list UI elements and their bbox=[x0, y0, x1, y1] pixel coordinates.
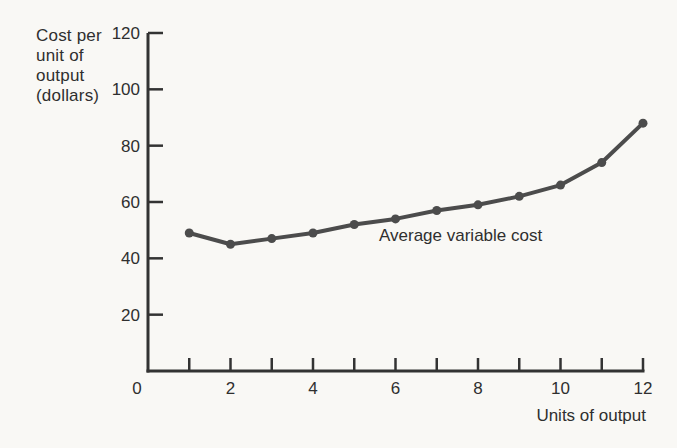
data-point-marker bbox=[267, 234, 276, 243]
data-point-marker bbox=[309, 228, 318, 237]
y-tick-label: 60 bbox=[121, 193, 140, 212]
x-tick-label: 12 bbox=[634, 379, 653, 398]
x-tick-label: 2 bbox=[226, 379, 235, 398]
x-tick-label: 8 bbox=[473, 379, 482, 398]
data-point-marker bbox=[474, 200, 483, 209]
x-tick-label: 10 bbox=[551, 379, 570, 398]
x-tick-label: 0 bbox=[132, 379, 141, 398]
x-tick-label: 6 bbox=[391, 379, 400, 398]
data-point-marker bbox=[515, 192, 524, 201]
x-tick-label: 4 bbox=[308, 379, 317, 398]
data-point-marker bbox=[639, 119, 648, 128]
y-tick-label: 120 bbox=[112, 24, 140, 43]
y-tick-label: 40 bbox=[121, 249, 140, 268]
y-tick-label: 80 bbox=[121, 137, 140, 156]
x-axis-title: Units of output bbox=[536, 406, 646, 425]
data-point-marker bbox=[185, 228, 194, 237]
figure: Cost perunit ofoutput(dollars) 204060801… bbox=[0, 0, 677, 448]
data-point-marker bbox=[597, 158, 606, 167]
line-annotation: Average variable cost bbox=[379, 226, 542, 245]
y-tick-label: 20 bbox=[121, 306, 140, 325]
avc-line-chart: 20406080100120024681012Units of outputAv… bbox=[0, 0, 677, 448]
data-point-marker bbox=[226, 240, 235, 249]
data-point-marker bbox=[556, 181, 565, 190]
data-point-marker bbox=[350, 220, 359, 229]
y-tick-label: 100 bbox=[112, 80, 140, 99]
data-point-marker bbox=[391, 214, 400, 223]
data-point-marker bbox=[432, 206, 441, 215]
